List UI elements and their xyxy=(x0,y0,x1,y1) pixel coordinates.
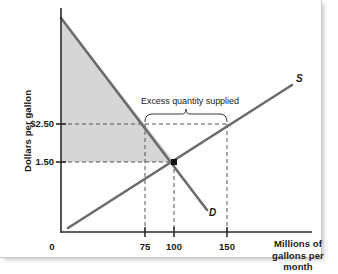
equilibrium-point-marker xyxy=(171,159,177,165)
x-tick-label-0: 0 xyxy=(42,241,62,252)
excess-quantity-supplied-label: Excess quantity supplied xyxy=(141,96,239,106)
demand-curve-label: D xyxy=(209,207,216,218)
supply-curve-label: S xyxy=(296,73,303,84)
x-tick-label-100: 100 xyxy=(160,241,188,252)
supply-demand-figure: Dollars per gallon Millions of gallons p… xyxy=(0,0,338,274)
y-tick-label-250: $2.50 xyxy=(2,118,54,129)
x-tick-label-150: 150 xyxy=(213,241,241,252)
plot-area xyxy=(0,0,338,274)
x-axis-title: Millions of gallons per month xyxy=(262,238,334,273)
excess-quantity-brace xyxy=(145,109,227,122)
x-axis-title-line1: Millions of xyxy=(274,238,322,249)
x-tick-label-75: 75 xyxy=(133,241,157,252)
x-axis-title-line2: gallons per month xyxy=(272,250,324,273)
y-tick-label-150: 1.50 xyxy=(2,156,54,167)
